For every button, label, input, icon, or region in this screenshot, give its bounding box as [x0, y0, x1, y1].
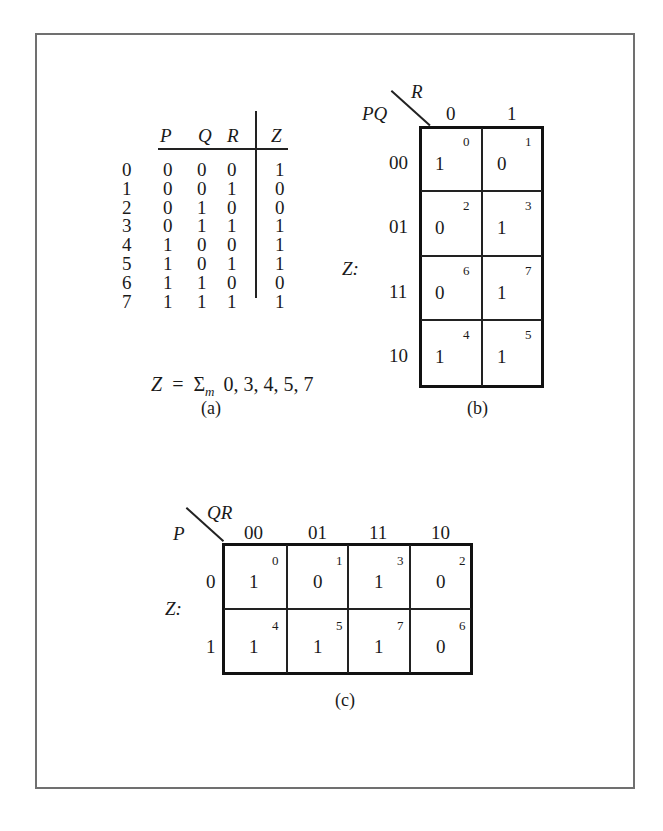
kmap-minterm-index: 5 — [525, 328, 532, 341]
cell-z: 0 — [275, 179, 285, 198]
sigma-symbol: Σ — [193, 373, 205, 395]
cell-z: 0 — [275, 198, 285, 217]
minterm-list: 0, 3, 4, 5, 7 — [223, 373, 313, 395]
kmap-c-col-header: 10 — [431, 523, 450, 542]
row-index: 1 — [122, 179, 132, 198]
kmap-cell-value: 1 — [249, 637, 259, 656]
kmap-b-row-header: 10 — [389, 346, 408, 365]
header-z: Z — [271, 126, 282, 145]
cell-z: 1 — [275, 292, 285, 311]
cell-r: 1 — [227, 254, 237, 273]
table-header-rule — [158, 148, 288, 150]
kmap-cell-value: 0 — [436, 572, 446, 591]
kmap-c-divider — [224, 608, 471, 610]
kmap-b-row-header: 00 — [389, 153, 408, 172]
cell-p: 0 — [163, 216, 173, 235]
cell-z: 1 — [275, 160, 285, 179]
kmap-c-col-var: QR — [207, 503, 232, 522]
kmap-minterm-index: 6 — [463, 264, 470, 277]
table-vertical-rule — [255, 111, 257, 298]
kmap-b-row-header: 11 — [389, 282, 407, 301]
cell-z: 1 — [275, 254, 285, 273]
row-index: 4 — [122, 235, 132, 254]
equation-equals: = — [172, 373, 183, 395]
cell-q: 1 — [197, 292, 207, 311]
kmap-cell-value: 1 — [249, 572, 259, 591]
kmap-cell-value: 0 — [436, 637, 446, 656]
kmap-minterm-index: 5 — [336, 619, 343, 632]
row-index: 2 — [122, 198, 132, 217]
kmap-b-row-var: PQ — [362, 104, 387, 123]
cell-q: 1 — [197, 198, 207, 217]
kmap-cell-value: 0 — [435, 283, 445, 302]
kmap-b-row-header: 01 — [389, 217, 408, 236]
kmap-minterm-index: 4 — [272, 619, 279, 632]
cell-p: 0 — [163, 179, 173, 198]
kmap-cell-value: 1 — [497, 283, 507, 302]
cell-q: 0 — [197, 235, 207, 254]
kmap-cell-value: 1 — [374, 637, 384, 656]
cell-q: 1 — [197, 216, 207, 235]
kmap-minterm-index: 0 — [272, 554, 279, 567]
kmap-minterm-index: 4 — [463, 328, 470, 341]
kmap-minterm-index: 7 — [397, 619, 404, 632]
kmap-b-col-header: 1 — [507, 104, 517, 123]
kmap-cell-value: 1 — [374, 572, 384, 591]
kmap-b-divider — [481, 128, 483, 386]
kmap-minterm-index: 2 — [459, 554, 466, 567]
cell-r: 0 — [227, 273, 237, 292]
row-index: 3 — [122, 216, 132, 235]
kmap-cell-value: 1 — [435, 347, 445, 366]
cell-p: 1 — [163, 235, 173, 254]
equation-lhs: Z — [151, 373, 162, 395]
kmap-cell-value: 1 — [313, 637, 323, 656]
row-index: 0 — [122, 160, 132, 179]
kmap-c-col-header: 01 — [308, 523, 327, 542]
row-index: 7 — [122, 292, 132, 311]
row-index: 6 — [122, 273, 132, 292]
kmap-cell-value: 0 — [435, 218, 445, 237]
kmap-minterm-index: 6 — [459, 619, 466, 632]
header-r: R — [227, 126, 239, 145]
kmap-minterm-index: 1 — [336, 554, 343, 567]
kmap-b-divider — [421, 255, 542, 257]
cell-z: 0 — [275, 273, 285, 292]
kmap-b-col-header: 0 — [446, 104, 456, 123]
cell-r: 0 — [227, 235, 237, 254]
kmap-cell-value: 1 — [497, 347, 507, 366]
kmap-minterm-index: 3 — [525, 199, 532, 212]
cell-p: 1 — [163, 292, 173, 311]
kmap-b-col-var: R — [411, 82, 423, 101]
kmap-c-row-var: P — [173, 524, 185, 543]
cell-z: 1 — [275, 216, 285, 235]
row-index: 5 — [122, 254, 132, 273]
minterm-equation: Z = Σm 0, 3, 4, 5, 7 — [151, 374, 313, 398]
kmap-b-divider — [421, 190, 542, 192]
kmap-minterm-index: 0 — [463, 135, 470, 148]
cell-q: 0 — [197, 179, 207, 198]
cell-z: 1 — [275, 235, 285, 254]
cell-p: 0 — [163, 160, 173, 179]
cell-r: 1 — [227, 179, 237, 198]
kmap-c-col-header: 11 — [369, 523, 387, 542]
kmap-minterm-index: 1 — [525, 135, 532, 148]
kmap-cell-value: 1 — [435, 154, 445, 173]
kmap-cell-value: 0 — [497, 154, 507, 173]
cell-p: 1 — [163, 254, 173, 273]
kmap-minterm-index: 2 — [463, 199, 470, 212]
caption-c: (c) — [335, 690, 355, 711]
header-p: P — [160, 126, 172, 145]
kmap-b-function-label: Z: — [342, 259, 359, 278]
cell-q: 0 — [197, 254, 207, 273]
header-q: Q — [198, 126, 212, 145]
cell-p: 0 — [163, 198, 173, 217]
cell-r: 0 — [227, 160, 237, 179]
cell-q: 0 — [197, 160, 207, 179]
cell-q: 1 — [197, 273, 207, 292]
kmap-c-col-header: 00 — [244, 523, 263, 542]
cell-r: 1 — [227, 216, 237, 235]
kmap-b-divider — [421, 319, 542, 321]
kmap-cell-value: 0 — [313, 572, 323, 591]
kmap-minterm-index: 7 — [525, 264, 532, 277]
caption-a: (a) — [201, 398, 221, 419]
